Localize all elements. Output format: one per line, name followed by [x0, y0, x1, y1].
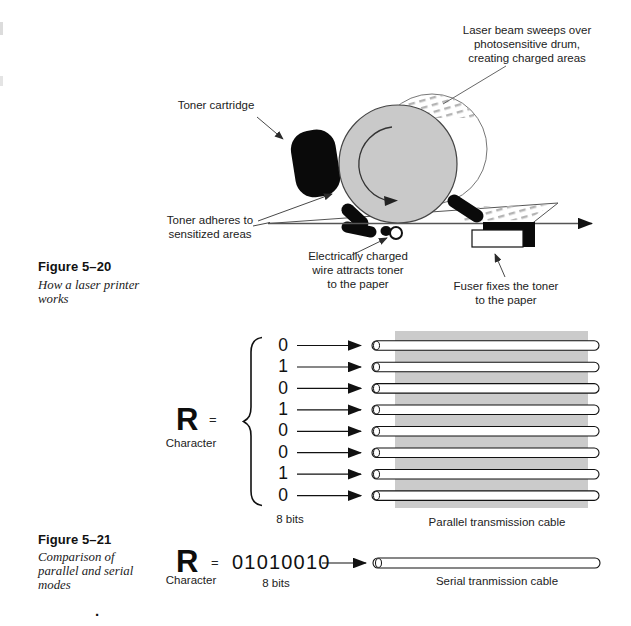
parallel-transmission-diagram [244, 331, 600, 508]
cable-6 [372, 448, 599, 458]
bit-column: 0 1 0 1 0 0 1 0 [270, 335, 296, 507]
brace [244, 338, 263, 506]
bit-row-4 [297, 405, 599, 415]
bit-row-5 [297, 427, 599, 437]
serial-cable [373, 558, 600, 568]
serial-character-label: Character [158, 574, 224, 586]
serial-character: R [176, 546, 198, 577]
cable-3 [372, 384, 599, 394]
bit-5: 0 [270, 442, 296, 463]
figure20-caption-body: How a laser printer works [38, 278, 168, 306]
bit-3: 1 [270, 399, 296, 420]
laser-printer-diagram [253, 66, 592, 277]
bit-1: 1 [270, 356, 296, 377]
serial-equals: = [211, 555, 219, 570]
label-laser-beam: Laser beam sweeps over photosensitive dr… [427, 24, 627, 65]
corona-wire [390, 227, 402, 239]
serial-cable-label: Serial tranmission cable [399, 575, 595, 587]
label-toner-cartridge: Toner cartridge [162, 99, 270, 113]
arrow-toner-adheres [258, 194, 332, 221]
textbook-page: Laser beam sweeps over photosensitive dr… [0, 0, 631, 626]
bit-7: 0 [270, 485, 296, 506]
figure21-caption-title: Figure 5–21 [38, 532, 111, 547]
bit-row-8 [297, 491, 599, 501]
cable-4 [372, 405, 599, 415]
parallel-character: R [176, 404, 198, 435]
cable-7 [372, 469, 599, 479]
bit-2: 0 [270, 377, 296, 398]
page-edge-marks [0, 22, 3, 86]
figure21-caption-body: Comparison of parallel and serial modes [38, 550, 158, 593]
cable-gray-bg [395, 331, 588, 508]
bit-0: 0 [270, 335, 296, 356]
bit-row-3 [297, 384, 599, 394]
bit-6: 1 [270, 463, 296, 484]
fuser-box [472, 230, 523, 247]
drum-front [339, 105, 457, 223]
bit-row-6 [297, 448, 599, 458]
toner-cartridge-shape [288, 127, 343, 200]
bit-row-2 [297, 362, 599, 372]
bit-4: 0 [270, 420, 296, 441]
label-fuser: Fuser fixes the toner to the paper [434, 280, 578, 308]
label-charged-wire: Electrically charged wire attracts toner… [294, 250, 422, 291]
parallel-bits-label: 8 bits [258, 513, 322, 525]
cable-2 [372, 362, 599, 372]
cable-5 [372, 427, 599, 437]
roller-left-lower [347, 227, 371, 232]
parallel-cable-label: Parallel transmission cable [399, 516, 595, 528]
serial-bits-label: 8 bits [245, 577, 307, 589]
bit-row-7 [297, 469, 599, 479]
parallel-equals: = [209, 412, 217, 427]
laser-pointer-line [443, 66, 506, 104]
serial-cable-connector [376, 559, 382, 568]
arrow-toner-cartridge [257, 117, 283, 139]
bit-row-1 [297, 341, 599, 351]
serial-transmission-diagram [322, 558, 600, 568]
figure20-caption-title: Figure 5–20 [38, 259, 111, 274]
stray-period-mark: . [95, 602, 99, 619]
serial-bit-string: 01010010 [232, 551, 331, 574]
cable-8 [372, 491, 599, 501]
arrow-fuser [495, 254, 505, 277]
parallel-character-label: Character [158, 437, 224, 449]
cable-1 [372, 341, 599, 351]
label-toner-adheres: Toner adheres to sensitized areas [154, 214, 266, 242]
